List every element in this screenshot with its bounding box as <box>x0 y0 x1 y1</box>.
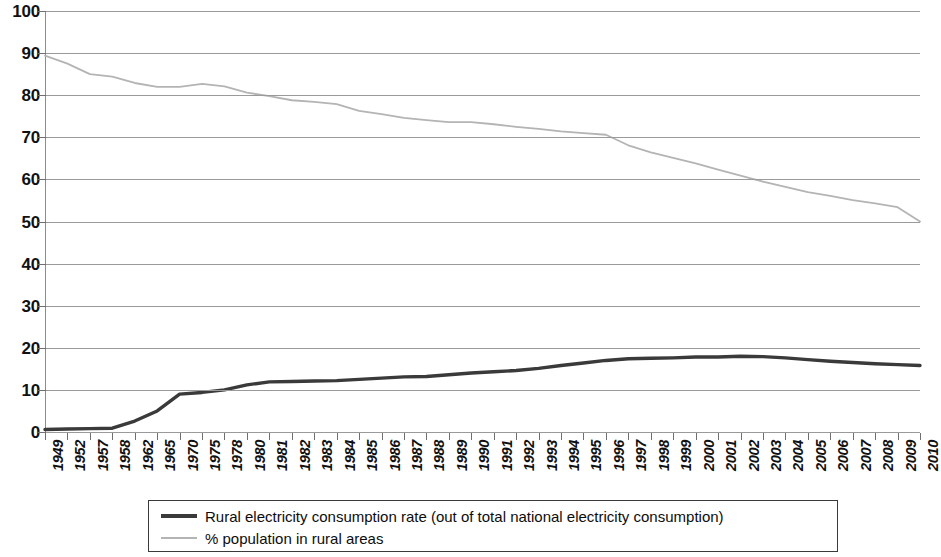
x-axis-tick <box>112 433 113 440</box>
legend-label: % population in rural areas <box>205 531 383 546</box>
x-axis-tick <box>898 433 899 440</box>
x-axis-tick <box>157 433 158 440</box>
gridline <box>45 137 920 138</box>
x-axis-tick <box>67 433 68 440</box>
x-axis-tick-label: 1958 <box>118 440 133 471</box>
x-axis-tick-label: 2002 <box>747 440 762 471</box>
x-axis-tick-label: 2007 <box>859 440 874 471</box>
x-axis-tick <box>269 433 270 440</box>
gridline <box>45 432 920 433</box>
y-axis-tick-label: 90 <box>0 45 40 62</box>
x-axis-tick <box>561 433 562 440</box>
x-axis-tick-label: 2010 <box>926 440 941 471</box>
gridline <box>45 390 920 391</box>
x-axis-tick-label: 1985 <box>365 440 380 471</box>
x-axis-tick-label: 1993 <box>545 440 560 471</box>
legend-line-icon-gray <box>161 537 197 539</box>
x-axis-tick-label: 1965 <box>163 440 178 471</box>
x-axis-tick <box>426 433 427 440</box>
y-axis-tick <box>38 348 46 349</box>
x-axis-tick-label: 1982 <box>298 440 313 471</box>
x-axis-tick <box>651 433 652 440</box>
legend-item-rural-electricity: Rural electricity consumption rate (out … <box>149 505 837 527</box>
x-axis-tick-label: 2003 <box>769 440 784 471</box>
x-axis-tick-label: 2008 <box>881 440 896 471</box>
y-axis-tick <box>38 53 46 54</box>
x-axis-tick <box>875 433 876 440</box>
legend-label: Rural electricity consumption rate (out … <box>205 509 724 524</box>
x-axis-tick-label: 2009 <box>904 440 919 471</box>
gridline <box>45 179 920 180</box>
gridline <box>45 264 920 265</box>
y-axis-tick-label: 30 <box>0 297 40 314</box>
x-axis-tick-label: 1995 <box>589 440 604 471</box>
x-axis-tick-label: 1999 <box>679 440 694 471</box>
x-axis-tick-label: 1992 <box>522 440 537 471</box>
x-axis-tick-label: 1952 <box>73 440 88 471</box>
x-axis-tick <box>180 433 181 440</box>
x-axis-tick-label: 2004 <box>791 440 806 471</box>
y-axis-tick <box>38 222 46 223</box>
x-axis-tick <box>606 433 607 440</box>
x-axis-tick <box>785 433 786 440</box>
x-axis-tick <box>292 433 293 440</box>
x-axis-tick-label: 1983 <box>320 440 335 471</box>
y-axis-labels: 0102030405060708090100 <box>0 0 40 443</box>
x-axis-tick <box>449 433 450 440</box>
y-axis-tick <box>38 95 46 96</box>
x-axis-tick <box>337 433 338 440</box>
x-axis-tick <box>45 433 46 440</box>
y-axis-tick-label: 10 <box>0 381 40 398</box>
x-axis-tick-label: 1997 <box>634 440 649 471</box>
x-axis-tick <box>583 433 584 440</box>
y-axis-tick-label: 70 <box>0 129 40 146</box>
x-axis-tick-label: 1962 <box>141 440 156 471</box>
x-axis-tick-label: 1989 <box>455 440 470 471</box>
y-axis-tick <box>38 11 46 12</box>
x-axis-tick <box>830 433 831 440</box>
x-axis-tick-label: 1987 <box>410 440 425 471</box>
legend-item-rural-population: % population in rural areas <box>149 527 837 549</box>
x-axis-tick <box>853 433 854 440</box>
x-axis-tick <box>539 433 540 440</box>
y-axis-tick-label: 60 <box>0 171 40 188</box>
x-axis-tick-label: 1981 <box>275 440 290 471</box>
gridline <box>45 348 920 349</box>
x-axis-tick-label: 2005 <box>814 440 829 471</box>
x-axis-tick <box>494 433 495 440</box>
x-axis-tick-label: 1978 <box>230 440 245 471</box>
x-axis-tick-label: 1998 <box>657 440 672 471</box>
x-axis-tick-label: 1988 <box>432 440 447 471</box>
x-axis-tick-label: 2006 <box>836 440 851 471</box>
gridline <box>45 95 920 96</box>
x-axis-tick-label: 1949 <box>51 440 66 471</box>
series-line-rural-population <box>45 56 920 222</box>
x-axis-tick <box>471 433 472 440</box>
x-axis-tick-label: 1986 <box>388 440 403 471</box>
gridline <box>45 53 920 54</box>
series-line-rural-electricity <box>45 356 920 429</box>
y-axis-tick <box>38 137 46 138</box>
x-axis-tick <box>763 433 764 440</box>
x-axis-tick-label: 1994 <box>567 440 582 471</box>
x-axis-tick <box>90 433 91 440</box>
x-axis-tick <box>741 433 742 440</box>
x-axis-tick <box>718 433 719 440</box>
x-axis-tick <box>247 433 248 440</box>
x-axis-tick <box>516 433 517 440</box>
gridline <box>45 11 920 12</box>
x-axis-tick-label: 1991 <box>500 440 515 471</box>
y-axis-tick-label: 0 <box>0 424 40 441</box>
x-axis-tick-label: 1996 <box>612 440 627 471</box>
x-axis-tick <box>920 433 921 440</box>
y-axis-tick-label: 80 <box>0 87 40 104</box>
x-axis-tick-label: 1970 <box>186 440 201 471</box>
x-axis-tick-label: 1984 <box>343 440 358 471</box>
gridline <box>45 222 920 223</box>
x-axis-tick <box>224 433 225 440</box>
x-axis-tick-label: 2001 <box>724 440 739 471</box>
y-axis-tick <box>38 264 46 265</box>
x-axis-tick <box>202 433 203 440</box>
y-axis-tick-label: 100 <box>0 3 40 20</box>
